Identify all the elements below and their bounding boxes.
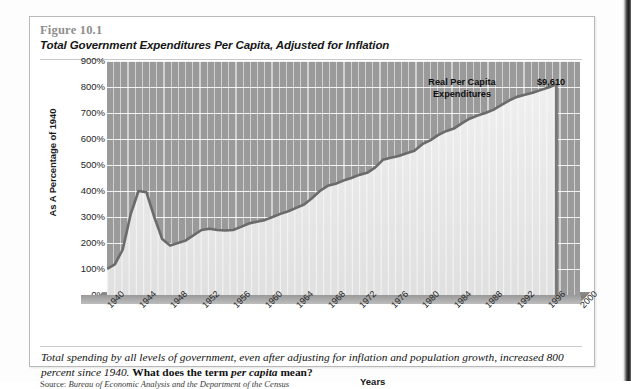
caption-divider bbox=[40, 346, 582, 347]
figure-box: Figure 10.1 Total Government Expenditure… bbox=[29, 16, 595, 367]
x-axis-ticks: 1940194419481952195619601964196819721976… bbox=[107, 303, 580, 343]
source-text: Bureau of Economic Analysis and the Depa… bbox=[68, 379, 289, 389]
y-tick-label: 800% bbox=[61, 81, 105, 92]
source-note: Source: Bureau of Economic Analysis and … bbox=[40, 379, 289, 389]
header-divider bbox=[40, 59, 582, 60]
chart-area: As A Percentage of 1940 900%800%700%600%… bbox=[30, 61, 594, 331]
y-tick-label: 700% bbox=[61, 107, 105, 118]
book-gutter-edge bbox=[622, 0, 631, 381]
figure-number: Figure 10.1 bbox=[40, 23, 102, 38]
y-axis-ticks: 900%800%700%600%500%400%300%200%100%0% bbox=[58, 61, 105, 301]
source-prefix: Source: bbox=[40, 379, 68, 389]
y-axis-label: As A Percentage of 1940 bbox=[47, 88, 58, 238]
y-tick-label: 400% bbox=[61, 185, 105, 196]
figure-title: Total Government Expenditures Per Capita… bbox=[40, 39, 389, 51]
y-tick-label: 600% bbox=[61, 133, 105, 144]
y-tick-label: 300% bbox=[61, 211, 105, 222]
y-tick-label: 900% bbox=[61, 55, 105, 66]
series-annotation-line2: Expenditures bbox=[407, 89, 517, 101]
caption-question-a: What does the term bbox=[132, 366, 231, 378]
endpoint-value-label: $9,610 bbox=[537, 77, 580, 89]
caption-term: per capita bbox=[231, 366, 278, 378]
y-tick-label: 200% bbox=[61, 237, 105, 248]
series-annotation-line1: Real Per Capita bbox=[407, 77, 517, 89]
figure-caption: Total spending by all levels of governme… bbox=[41, 350, 581, 380]
y-tick-label: 500% bbox=[61, 159, 105, 170]
y-tick-label: 100% bbox=[61, 263, 105, 274]
series-annotation: Real Per Capita Expenditures bbox=[407, 77, 517, 100]
plot-region: Real Per Capita Expenditures $9,610 bbox=[107, 61, 580, 295]
caption-question-b: mean? bbox=[278, 366, 313, 378]
